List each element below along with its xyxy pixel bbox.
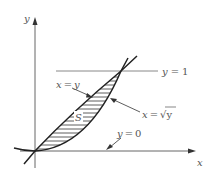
label-x-equals-y: x=y bbox=[56, 79, 80, 90]
x-axis-arrow-icon bbox=[188, 149, 196, 154]
y-axis-arrow-icon bbox=[33, 17, 38, 25]
pointer-x-equals-sqrt-y bbox=[110, 98, 140, 112]
label-x-equals-sqrt-y: x=√y bbox=[142, 109, 172, 120]
pointer-y-equals-0 bbox=[106, 138, 121, 150]
x-axis-label: x bbox=[197, 157, 203, 168]
y-axis bbox=[33, 17, 38, 168]
region-diagram: y x y=1 x=y x=√y y=0 S bbox=[0, 0, 212, 182]
label-y-equals-0: y=0 bbox=[116, 128, 141, 139]
label-y-equals-1: y=1 bbox=[161, 66, 188, 77]
arrow-icon bbox=[106, 144, 113, 150]
region-label-s: S bbox=[75, 112, 82, 123]
y-axis-label: y bbox=[23, 13, 30, 24]
